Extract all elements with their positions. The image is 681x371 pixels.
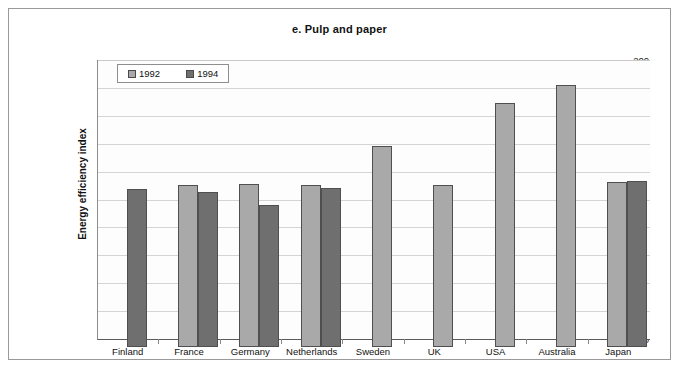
bar-group (535, 68, 596, 347)
chart-title: e. Pulp and paper (9, 23, 670, 35)
bar-group (106, 68, 167, 347)
bar (321, 188, 341, 347)
x-tick-mark (342, 339, 343, 344)
legend-swatch-icon (128, 70, 136, 78)
chart-frame: e. Pulp and paper Energy efficiency inde… (8, 8, 671, 360)
x-tick-label: Australia (526, 346, 587, 357)
y-axis-label: Energy efficiency index (77, 128, 88, 240)
legend-label: 1992 (139, 68, 160, 79)
bar (627, 181, 647, 347)
bar-group (474, 68, 535, 347)
x-tick-label: Finland (97, 346, 158, 357)
x-tick-label: Japan (588, 346, 649, 357)
x-tick-label: UK (404, 346, 465, 357)
bar (372, 146, 392, 347)
bar (198, 192, 218, 347)
bar-group (167, 68, 228, 347)
bar-group (597, 68, 658, 347)
x-tick-mark (281, 339, 282, 344)
bar (556, 85, 576, 347)
x-axis-labels: FinlandFranceGermanyNetherlandsSwedenUKU… (97, 346, 649, 357)
x-tick-label: USA (465, 346, 526, 357)
x-tick-mark (588, 339, 589, 344)
gridline (98, 60, 650, 61)
bar (178, 185, 198, 347)
legend-entry[interactable]: 1992 (128, 68, 160, 79)
x-tick-mark (404, 339, 405, 344)
legend-entry[interactable]: 1994 (186, 68, 218, 79)
x-tick-label: Germany (220, 346, 281, 357)
bar-group (290, 68, 351, 347)
bar (127, 189, 147, 347)
bar-series-container (106, 68, 658, 347)
bar (433, 185, 453, 347)
bar (239, 184, 259, 347)
x-tick-mark (465, 339, 466, 344)
plot-region: 200180160140120100806040200 19921994 Fin… (89, 52, 649, 339)
bar-group (229, 68, 290, 347)
x-tick-mark (526, 339, 527, 344)
bar (607, 182, 627, 347)
x-tick-label: Sweden (342, 346, 403, 357)
x-tick-mark (220, 339, 221, 344)
x-tick-label: Netherlands (281, 346, 342, 357)
bar (495, 103, 515, 347)
bar (301, 185, 321, 347)
legend-label: 1994 (197, 68, 218, 79)
x-tick-mark (158, 339, 159, 344)
bar-group (413, 68, 474, 347)
bar-group (351, 68, 412, 347)
chart-legend: 19921994 (117, 64, 229, 83)
bar (259, 205, 279, 347)
x-tick-label: France (158, 346, 219, 357)
x-axis-ticks (97, 339, 649, 345)
legend-swatch-icon (186, 70, 194, 78)
plot-area (97, 60, 650, 340)
